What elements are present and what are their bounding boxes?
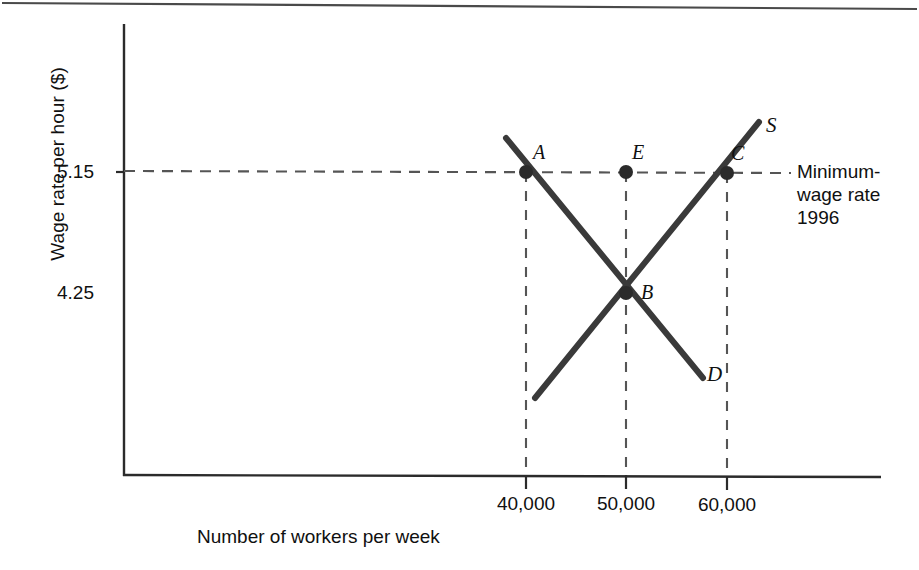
x-tick-label-60000: 60,000 xyxy=(667,494,787,516)
data-point-a xyxy=(519,165,533,179)
demand-curve xyxy=(506,138,703,378)
demand-curve-label: D xyxy=(707,362,722,387)
minimum-wage-dashed-line xyxy=(124,171,791,173)
figure-container: Wage rate per hour ($) 5.15 4.25 40,000 … xyxy=(0,0,919,570)
chart-canvas xyxy=(0,0,919,570)
x-axis-line xyxy=(123,475,881,477)
point-label-a: A xyxy=(533,141,545,164)
annotation-line-3: 1996 xyxy=(797,206,880,229)
page-top-border xyxy=(2,3,917,9)
annotation-line-1: Minimum- xyxy=(797,160,880,183)
data-point-e xyxy=(619,165,633,179)
data-point-b xyxy=(619,286,633,300)
y-tick-label-425: 4.25 xyxy=(26,282,94,304)
point-label-b: B xyxy=(641,281,653,304)
y-tick-label-515: 5.15 xyxy=(26,161,94,183)
x-axis-label: Number of workers per week xyxy=(197,526,440,548)
point-label-c: C xyxy=(731,142,744,165)
point-label-e: E xyxy=(632,141,644,164)
annotation-line-2: wage rate xyxy=(797,183,880,206)
minimum-wage-annotation: Minimum- wage rate 1996 xyxy=(797,160,880,229)
supply-curve-label: S xyxy=(766,113,777,138)
supply-curve xyxy=(535,122,759,398)
data-point-c xyxy=(720,166,734,180)
